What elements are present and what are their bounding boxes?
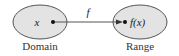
- mapping-label: f: [86, 6, 91, 18]
- domain-element-label: x: [34, 16, 40, 28]
- range-element-label: f(x): [130, 16, 146, 29]
- domain-label: Domain: [22, 40, 58, 52]
- range-point: [123, 20, 127, 24]
- function-mapping-diagram: x f(x) f Domain Range: [0, 0, 179, 56]
- domain-point: [51, 20, 55, 24]
- range-label: Range: [126, 40, 154, 52]
